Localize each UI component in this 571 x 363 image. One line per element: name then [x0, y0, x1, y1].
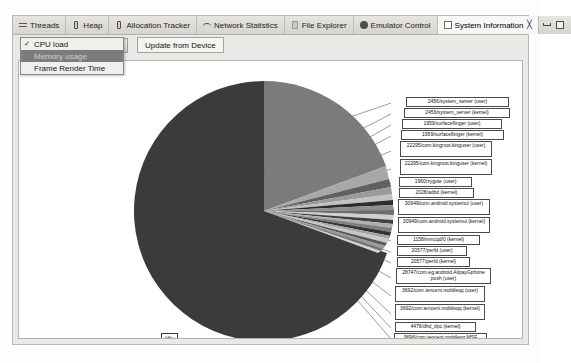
- chart-panel: Idle 2456/system_server (user)2456/syste…: [18, 60, 523, 339]
- callout-label: 1158/mmcqd/0 (kernel): [397, 235, 480, 245]
- callout-label: 22295/com.kingroot.kinguser (user): [400, 141, 492, 157]
- minimize-icon[interactable]: [543, 21, 551, 29]
- tab-heap[interactable]: Heap: [66, 16, 109, 34]
- callout-label: 20577/perfd (user): [397, 246, 467, 256]
- tab-file-explorer-label: File Explorer: [302, 21, 347, 30]
- callout-label: 1959/surfaceflinger (user): [402, 119, 502, 129]
- tab-threads[interactable]: Threads: [13, 16, 66, 34]
- view-select-menu: CPU load Memory usage Frame Render Time: [20, 37, 124, 75]
- network-statistics-icon: [203, 21, 211, 29]
- menu-item-frame-render-time-label: Frame Render Time: [34, 64, 105, 73]
- callout-label: 9696/com.tencent.mobileqq:MSF (user): [394, 333, 487, 339]
- window-controls: [539, 16, 571, 34]
- tab-bar: Threads Heap Allocation Tracker Network …: [13, 16, 528, 35]
- tab-system-information[interactable]: System Information ╳: [438, 16, 539, 34]
- tab-threads-label: Threads: [30, 21, 59, 30]
- close-icon[interactable]: ╳: [527, 21, 532, 29]
- heap-icon: [72, 21, 80, 29]
- pie-slices: [134, 81, 394, 339]
- callout-label: 28747/com.eg.android.AlipayGphone push (…: [396, 268, 491, 284]
- tab-emulator-control[interactable]: Emulator Control: [354, 16, 438, 34]
- tab-emulator-control-label: Emulator Control: [371, 21, 431, 30]
- ddms-window: Threads Heap Allocation Tracker Network …: [12, 15, 529, 345]
- update-from-device-label: Update from Device: [145, 41, 216, 50]
- tab-heap-label: Heap: [83, 21, 102, 30]
- system-information-icon: [444, 21, 452, 29]
- file-explorer-icon: [291, 21, 299, 29]
- cpu-load-pie-chart: Idle 2456/system_server (user)2456/syste…: [19, 61, 522, 338]
- callout-label: 1959/surfaceflinger (kernel): [401, 130, 504, 140]
- allocation-tracker-icon: [115, 21, 123, 29]
- callout-idle: Idle: [161, 333, 178, 339]
- emulator-control-icon: [360, 21, 368, 29]
- tab-allocation-tracker-label: Allocation Tracker: [126, 21, 190, 30]
- tab-system-information-label: System Information: [455, 21, 524, 30]
- tab-network-statistics[interactable]: Network Statistics: [197, 16, 285, 34]
- callout-label: 1960/zygote (user): [399, 177, 472, 187]
- desktop-background: [0, 0, 541, 15]
- tab-allocation-tracker[interactable]: Allocation Tracker: [109, 16, 197, 34]
- maximize-icon[interactable]: [556, 21, 564, 29]
- tab-network-statistics-label: Network Statistics: [214, 21, 278, 30]
- callout-label: 2028/adbd (kernel): [399, 188, 474, 198]
- callout-label: 4476/dhd_dpc (kernel): [395, 322, 476, 332]
- menu-item-memory-usage[interactable]: Memory usage: [21, 50, 123, 62]
- update-from-device-button[interactable]: Update from Device: [137, 37, 224, 53]
- callout-label: 22295/com.kingroot.kinguser (kernel): [400, 159, 492, 175]
- callout-label: 30949/com.android.systemui (kernel): [398, 217, 490, 233]
- threads-icon: [19, 21, 27, 29]
- menu-item-cpu-load[interactable]: CPU load: [21, 38, 123, 50]
- callout-idle-label: Idle: [165, 335, 174, 339]
- callout-label: 2456/system_server (user): [406, 97, 509, 107]
- callout-label: 3692/com.tencent.mobileqq (kernel): [395, 304, 485, 320]
- menu-item-memory-usage-label: Memory usage: [34, 52, 87, 61]
- callout-label: 2456/system_server (kernel): [404, 108, 510, 118]
- callout-label: 3692/com.tencent.mobileqq (user): [395, 286, 485, 302]
- callout-label: 30949/com.android.systemui (user): [398, 199, 490, 215]
- menu-item-cpu-load-label: CPU load: [34, 40, 68, 49]
- callout-label: 20577/perfd (kernel): [397, 257, 470, 267]
- tab-file-explorer[interactable]: File Explorer: [285, 16, 354, 34]
- menu-item-frame-render-time[interactable]: Frame Render Time: [21, 62, 123, 74]
